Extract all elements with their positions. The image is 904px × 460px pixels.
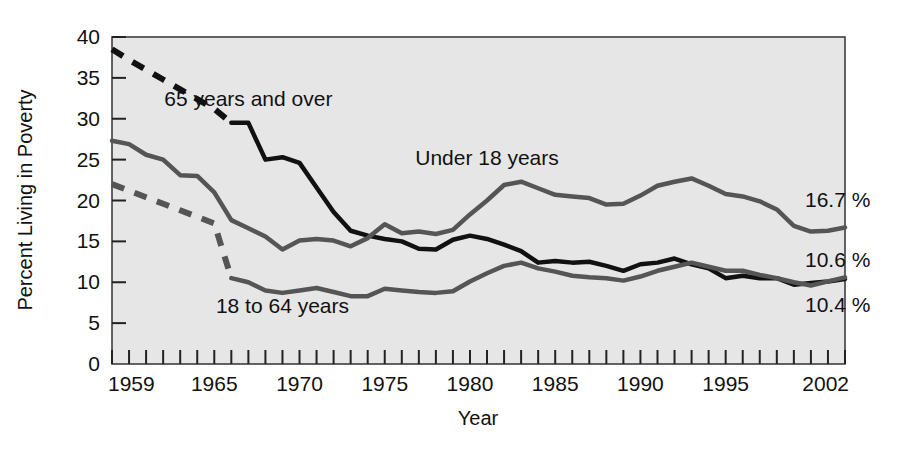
series-end-label: 10.6 % xyxy=(805,248,870,271)
y-tick-label: 25 xyxy=(77,148,100,171)
chart-canvas: 0510152025303540 19591965197019751980198… xyxy=(0,0,904,460)
x-tick-label: 1970 xyxy=(276,372,323,395)
y-tick-label: 35 xyxy=(77,66,100,89)
y-axis-title: Percent Living in Poverty xyxy=(14,89,36,310)
series-label: Under 18 years xyxy=(415,146,559,169)
x-tick-label: 1985 xyxy=(532,372,579,395)
y-tick-label: 40 xyxy=(77,25,100,48)
x-tick-label: 1995 xyxy=(702,372,749,395)
x-tick-label: 1965 xyxy=(191,372,238,395)
y-tick-label: 0 xyxy=(88,352,100,375)
x-axis-tick-labels: 195919651970197519801985199019952002 xyxy=(108,372,849,395)
x-tick-label: 1980 xyxy=(447,372,494,395)
series-label: 65 years and over xyxy=(164,87,332,110)
series-end-value-labels: 16.7 %10.6 %10.4 % xyxy=(805,188,870,316)
x-axis-title: Year xyxy=(458,407,499,429)
series-end-label: 16.7 % xyxy=(805,188,870,211)
x-tick-label: 1975 xyxy=(361,372,408,395)
y-tick-label: 30 xyxy=(77,107,100,130)
y-tick-label: 5 xyxy=(88,311,100,334)
y-tick-label: 20 xyxy=(77,189,100,212)
poverty-line-chart: 0510152025303540 19591965197019751980198… xyxy=(0,0,904,460)
x-tick-label: 1959 xyxy=(108,372,155,395)
series-label: 18 to 64 years xyxy=(216,294,349,317)
y-tick-label: 10 xyxy=(77,270,100,293)
y-tick-label: 15 xyxy=(77,229,100,252)
series-end-label: 10.4 % xyxy=(805,293,870,316)
x-tick-label: 1990 xyxy=(617,372,664,395)
x-tick-label: 2002 xyxy=(802,372,849,395)
